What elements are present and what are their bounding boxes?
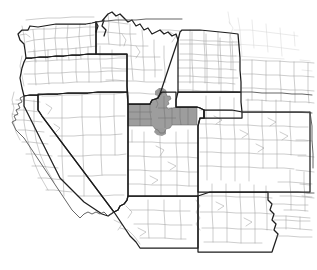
map-container: Western United States County Map Outline… (0, 0, 317, 270)
western-us-county-map: Western United States County Map Outline… (0, 0, 317, 270)
